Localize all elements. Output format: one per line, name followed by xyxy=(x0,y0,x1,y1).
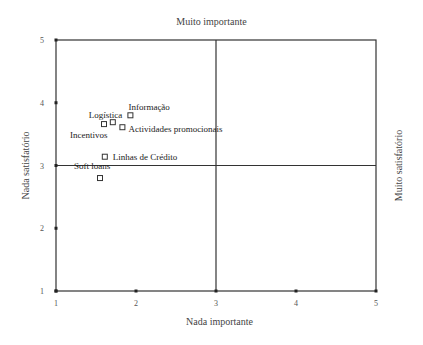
top-axis-label: Muito importante xyxy=(0,16,423,27)
data-point-marker xyxy=(110,120,115,125)
data-point-marker xyxy=(128,113,133,118)
left-axis-label: Nada satisfatório xyxy=(20,116,31,216)
svg-text:4: 4 xyxy=(40,99,44,108)
bottom-axis-label: Nada importante xyxy=(8,316,423,327)
svg-text:1: 1 xyxy=(40,287,44,296)
point-label: Informação xyxy=(128,102,169,112)
axis-ticks: 1234512345 xyxy=(40,36,378,308)
data-point-marker xyxy=(102,154,107,159)
point-label: Logística xyxy=(89,110,123,120)
svg-text:5: 5 xyxy=(374,299,378,308)
svg-text:5: 5 xyxy=(40,36,44,45)
svg-text:3: 3 xyxy=(214,299,218,308)
point-label: Actividades promocionais xyxy=(128,124,222,134)
data-point-marker xyxy=(120,125,125,130)
svg-text:2: 2 xyxy=(134,299,138,308)
svg-text:2: 2 xyxy=(40,224,44,233)
svg-text:3: 3 xyxy=(40,162,44,171)
svg-text:4: 4 xyxy=(294,299,298,308)
point-label: Incentivos xyxy=(70,130,108,140)
point-label: Linhas de Crédito xyxy=(113,152,178,162)
point-label: Soft loans xyxy=(74,161,110,171)
right-axis-label: Muito satisfatório xyxy=(393,116,404,216)
quadrant-scatter-chart: 1234512345 xyxy=(0,0,423,345)
data-point-marker xyxy=(98,176,103,181)
svg-text:1: 1 xyxy=(54,299,58,308)
data-point-marker xyxy=(102,122,107,127)
